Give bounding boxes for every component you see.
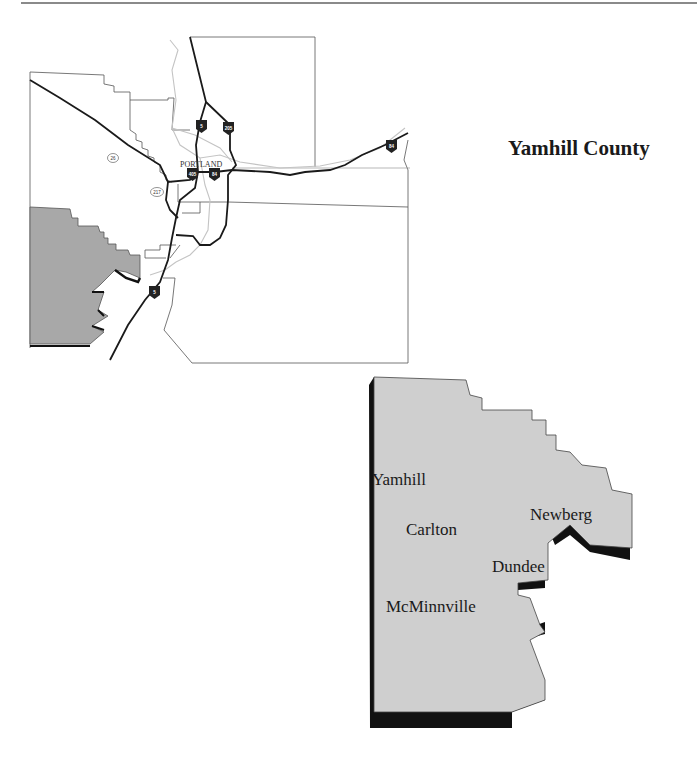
yamhill-county-shape [374, 377, 632, 712]
city-label-carlton: Carlton [406, 520, 457, 539]
city-label-newberg: Newberg [530, 505, 592, 524]
city-label-mcminnville: McMinnville [386, 597, 476, 616]
county-detail-map: Yamhill Carlton Newberg Dundee McMinnvil… [0, 0, 697, 766]
city-label-yamhill: Yamhill [372, 470, 426, 489]
city-label-dundee: Dundee [492, 557, 545, 576]
